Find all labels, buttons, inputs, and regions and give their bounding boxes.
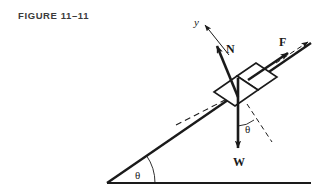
weight-angle-label: θ bbox=[245, 123, 250, 135]
free-body-diagram: y N F W θ θ bbox=[0, 0, 325, 192]
normal-force-label: N bbox=[226, 42, 235, 56]
figure-container: FIGURE 11–11 bbox=[0, 0, 325, 192]
weight-label: W bbox=[233, 155, 245, 169]
y-axis-label: y bbox=[193, 16, 199, 28]
applied-force-label: F bbox=[279, 35, 286, 49]
incline-angle-arc bbox=[147, 156, 156, 183]
incline-parallel-dashed-line bbox=[176, 98, 229, 125]
incline-surface-line bbox=[107, 43, 311, 183]
incline-angle-label: θ bbox=[135, 169, 140, 181]
weight-angle-dashed-line bbox=[247, 104, 272, 142]
